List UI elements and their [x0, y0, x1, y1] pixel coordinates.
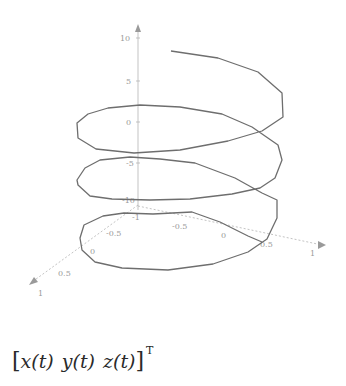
x-tick-label: 0.5 — [58, 269, 71, 278]
y-axis-arrow-icon — [318, 241, 326, 249]
formula-z: z(t) — [103, 350, 135, 372]
x-tick-label: 1 — [38, 289, 43, 298]
x-axis — [32, 205, 138, 282]
x-tick-label: -0.5 — [106, 229, 121, 238]
z-tick-label: -10 — [122, 196, 135, 205]
y-axis — [138, 206, 322, 245]
z-tick-label: 5 — [126, 77, 131, 86]
z-axis-arrow-icon — [135, 24, 141, 32]
z-tick-label: 10 — [120, 34, 130, 43]
formula-y: y(t) — [62, 350, 95, 372]
formula-open-bracket: [ — [12, 348, 21, 373]
y-tick-label: -1 — [132, 213, 140, 222]
formula-transpose: T — [146, 344, 153, 357]
plot-expression-label: [x(t)y(t)z(t)]T — [12, 348, 151, 373]
z-tick-label: -5 — [126, 159, 134, 168]
formula-x: x(t) — [21, 350, 54, 372]
x-tick-label: 0 — [90, 247, 95, 256]
y-tick-label: 1 — [310, 249, 315, 258]
y-tick-label: 0 — [221, 231, 226, 240]
formula-close-bracket: ] — [135, 348, 144, 373]
z-tick-label: 0 — [126, 118, 131, 127]
helix-3d-plot[interactable]: 10 5 0 -5 -10 -0.5 0 0.5 1 -1 -0.5 0 0.5… — [0, 0, 346, 320]
y-tick-label: -0.5 — [172, 222, 187, 231]
